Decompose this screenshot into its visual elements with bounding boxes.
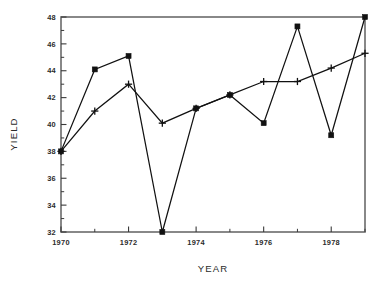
x-tick-label: 1970 <box>52 238 70 247</box>
data-point-square <box>329 133 334 138</box>
y-tick-label: 46 <box>47 40 56 49</box>
yield-vs-year-chart: 323436384042444648 19701972197419761978 … <box>0 0 382 289</box>
y-axis-title: YIELD <box>8 117 19 150</box>
data-point-square <box>126 53 131 58</box>
y-tick-label: 42 <box>47 93 56 102</box>
x-axis-title: YEAR <box>198 263 229 274</box>
y-axis-tick-labels: 323436384042444648 <box>47 13 56 237</box>
data-point-square <box>363 15 368 20</box>
data-point-square <box>295 24 300 29</box>
y-tick-label: 44 <box>47 66 56 75</box>
data-point-square <box>92 67 97 72</box>
chart-canvas: 323436384042444648 19701972197419761978 … <box>0 0 382 289</box>
y-tick-label: 38 <box>47 147 56 156</box>
y-tick-label: 40 <box>47 120 56 129</box>
x-tick-label: 1974 <box>187 238 205 247</box>
y-tick-label: 36 <box>47 174 56 183</box>
y-tick-label: 34 <box>47 201 56 210</box>
x-tick-label: 1972 <box>120 238 138 247</box>
x-tick-label: 1976 <box>255 238 273 247</box>
data-point-square <box>160 230 165 235</box>
data-point-square <box>261 121 266 126</box>
y-tick-label: 48 <box>47 13 56 22</box>
x-tick-label: 1978 <box>322 238 340 247</box>
y-tick-label: 32 <box>47 228 56 237</box>
